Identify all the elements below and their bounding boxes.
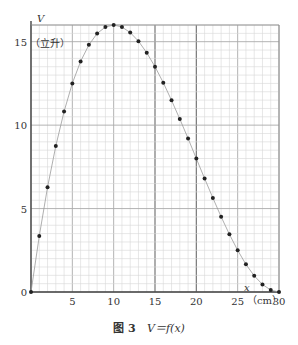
data-point: [120, 25, 124, 29]
y-tick-label: 0: [21, 287, 27, 298]
data-point: [211, 196, 215, 200]
y-axis-label: V: [37, 13, 46, 24]
data-point: [128, 31, 132, 35]
data-point: [145, 51, 149, 55]
data-point: [46, 185, 50, 189]
data-point: [178, 117, 182, 121]
data-point: [244, 262, 248, 266]
y-tick-labels: 051015: [14, 37, 27, 298]
y-tick-label: 5: [21, 204, 27, 215]
data-point: [236, 248, 240, 252]
data-point: [219, 215, 223, 219]
data-point: [252, 274, 256, 278]
data-point: [203, 177, 207, 181]
data-point: [112, 23, 116, 27]
data-point: [186, 136, 190, 140]
x-tick-label: 15: [149, 296, 162, 307]
data-point: [161, 81, 165, 85]
data-point: [70, 81, 74, 85]
y-axis-unit: （立升）: [30, 37, 70, 49]
data-point: [136, 39, 140, 43]
data-point: [95, 32, 99, 36]
x-tick-label: 5: [69, 296, 75, 307]
caption-prefix: 图 3: [113, 322, 135, 335]
data-point: [54, 144, 58, 148]
data-point: [153, 65, 157, 69]
x-tick-label: 20: [190, 296, 203, 307]
data-point: [29, 290, 33, 294]
data-point: [103, 25, 107, 29]
data-point: [227, 232, 231, 236]
data-point: [79, 59, 83, 63]
chart: 51015202530 051015 V （立升） x （cm）: [0, 0, 298, 345]
data-point: [260, 282, 264, 286]
x-axis-unit: （cm）: [247, 295, 282, 306]
data-point: [269, 288, 273, 292]
data-point: [170, 98, 174, 102]
data-point: [37, 234, 41, 238]
x-tick-label: 10: [107, 296, 120, 307]
y-tick-label: 10: [14, 120, 27, 131]
figure-caption: 图 3 V＝f(x): [0, 319, 298, 335]
x-tick-label: 25: [231, 296, 244, 307]
data-point: [194, 157, 198, 161]
y-tick-label: 15: [14, 37, 27, 48]
data-point: [277, 290, 281, 294]
x-axis-label: x: [244, 282, 250, 293]
caption-formula: V＝f(x): [147, 322, 185, 335]
data-point: [62, 109, 66, 113]
data-point: [87, 43, 91, 47]
